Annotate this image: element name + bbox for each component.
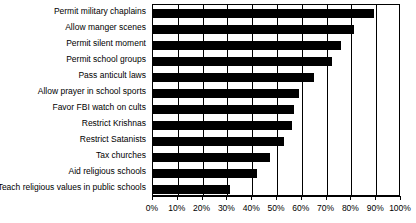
category-label: Pass anticult laws	[78, 71, 146, 80]
x-tick	[326, 196, 327, 200]
x-tick-label: 40%	[243, 203, 260, 213]
category-label: Tax churches	[96, 151, 146, 160]
x-tick-label: 10%	[168, 203, 185, 213]
x-tick	[375, 196, 376, 200]
category-label: Restrict Krishnas	[82, 119, 146, 128]
bar	[153, 121, 292, 130]
x-tick-label: 50%	[267, 203, 284, 213]
x-tick-label: 30%	[218, 203, 235, 213]
bar	[153, 73, 314, 82]
bar	[153, 105, 294, 114]
bar-row	[153, 73, 399, 82]
bar-row	[153, 153, 399, 162]
bar	[153, 185, 230, 194]
bar	[153, 169, 257, 178]
category-label: Aid religious schools	[69, 167, 146, 176]
x-tick	[301, 196, 302, 200]
category-label: Restrict Satanists	[80, 135, 146, 144]
bar	[153, 137, 284, 146]
bar-row	[153, 57, 399, 66]
bar	[153, 89, 299, 98]
x-tick-label: 90%	[367, 203, 384, 213]
bar-chart: Permit military chaplainsAllow manger sc…	[0, 0, 416, 223]
bar-row	[153, 9, 399, 18]
x-tick-label: 0%	[146, 203, 158, 213]
x-tick	[177, 196, 178, 200]
bar	[153, 9, 374, 18]
x-tick-label: 60%	[292, 203, 309, 213]
bar-row	[153, 41, 399, 50]
bar	[153, 25, 354, 34]
x-tick	[350, 196, 351, 200]
bar	[153, 41, 341, 50]
bar-row	[153, 25, 399, 34]
bar-row	[153, 105, 399, 114]
category-label: Allow prayer in school sports	[38, 87, 146, 96]
x-tick	[152, 196, 153, 200]
x-tick	[202, 196, 203, 200]
category-axis-labels: Permit military chaplainsAllow manger sc…	[0, 4, 150, 196]
bar-row	[153, 121, 399, 130]
x-axis-tick-labels: 0%10%20%30%40%50%60%70%80%90%100%	[0, 203, 416, 217]
category-label: Allow manger scenes	[65, 23, 146, 32]
bars-layer	[153, 5, 399, 195]
category-label: Permit military chaplains	[54, 7, 146, 16]
category-label: Favor FBI watch on cults	[52, 103, 146, 112]
bar-row	[153, 89, 399, 98]
category-label: Teach religious values in public schools	[0, 183, 146, 192]
bar-row	[153, 185, 399, 194]
plot-area	[152, 4, 400, 196]
x-tick-label: 100%	[389, 203, 411, 213]
bar	[153, 153, 270, 162]
category-label: Permit school groups	[66, 55, 146, 64]
x-tick-label: 80%	[342, 203, 359, 213]
bar	[153, 57, 332, 66]
x-tick-label: 70%	[317, 203, 334, 213]
category-label: Permit silent moment	[66, 39, 146, 48]
x-axis-ticks	[152, 196, 401, 201]
x-tick	[251, 196, 252, 200]
x-tick	[400, 196, 401, 200]
x-tick-label: 20%	[193, 203, 210, 213]
x-tick	[276, 196, 277, 200]
bar-row	[153, 169, 399, 178]
x-tick	[226, 196, 227, 200]
bar-row	[153, 137, 399, 146]
